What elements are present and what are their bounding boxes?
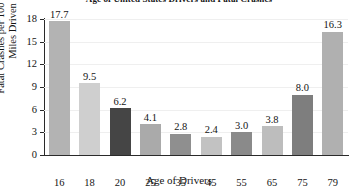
y-axis-tick-label: 15 — [27, 36, 38, 47]
y-axis-tick — [40, 19, 44, 20]
y-axis-tick — [40, 110, 44, 111]
bar-value-label: 4.1 — [144, 113, 157, 124]
bar-value-label: 2.8 — [174, 122, 187, 133]
y-axis-tick — [40, 87, 44, 88]
y-axis-tick-label: 9 — [32, 82, 37, 93]
bar: 3.8 — [262, 126, 283, 155]
bar: 6.2 — [110, 108, 131, 155]
bar-value-label: 8.0 — [296, 83, 309, 94]
y-axis-tick-label: 0 — [32, 150, 37, 161]
y-axis-tick-label: 12 — [27, 59, 38, 70]
bar-value-label: 16.3 — [324, 20, 342, 31]
bar: 16.3 — [322, 32, 343, 155]
y-axis-tick — [40, 132, 44, 133]
bar-value-label: 6.2 — [113, 97, 126, 108]
y-axis-title: Fatal Crashes per 100 Million Miles Driv… — [0, 0, 20, 101]
x-axis-line — [44, 155, 349, 156]
y-axis-tick-label: 18 — [27, 14, 38, 25]
bar: 8.0 — [292, 95, 313, 155]
bar: 2.8 — [170, 134, 191, 155]
gridline — [44, 64, 348, 65]
bar: 2.4 — [201, 137, 222, 155]
x-axis-title: Age of Drivers — [0, 174, 358, 186]
bar: 4.1 — [140, 124, 161, 155]
gridline — [44, 19, 348, 20]
bar-value-label: 3.0 — [235, 121, 248, 132]
y-axis-tick — [40, 64, 44, 65]
bar: 9.5 — [79, 83, 100, 155]
y-axis-title-text: Fatal Crashes per 100 Million Miles Driv… — [0, 0, 20, 94]
y-axis-tick — [40, 42, 44, 43]
bar: 3.0 — [231, 132, 252, 155]
y-axis-tick — [40, 155, 44, 156]
y-axis-tick-label: 6 — [32, 104, 37, 115]
plot-area: 036912151817.7169.5186.2204.1252.8352.44… — [44, 19, 348, 155]
bar: 17.7 — [49, 21, 70, 155]
chart-title: Age of United States Drivers and Fatal C… — [0, 0, 358, 4]
gridline — [44, 42, 348, 43]
bar-value-label: 17.7 — [50, 10, 68, 21]
bar-value-label: 2.4 — [205, 125, 218, 136]
y-axis-tick-label: 3 — [32, 127, 37, 138]
bar-value-label: 3.8 — [265, 115, 278, 126]
bar-value-label: 9.5 — [83, 72, 96, 83]
bar-chart: Age of United States Drivers and Fatal C… — [0, 0, 358, 192]
